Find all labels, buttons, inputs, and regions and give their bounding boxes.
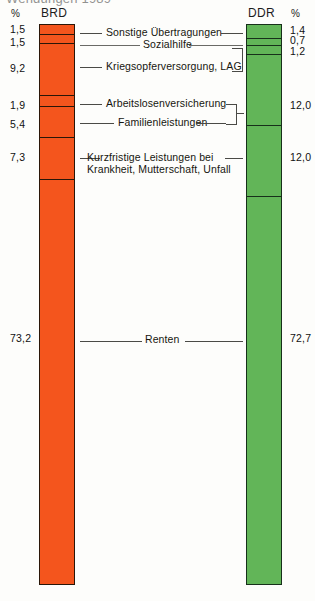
leader-familien-right xyxy=(196,123,226,124)
leader-sonstige-left xyxy=(80,33,102,34)
ddr-column-header: DDR xyxy=(248,6,275,20)
callout-sonstige-uebertragungen: Sonstige Übertragungen xyxy=(106,27,222,38)
brd-segment-arbeitslosenversicherung xyxy=(40,95,74,106)
left-percent-symbol: % xyxy=(11,8,20,19)
bracket-ddr-kriegsopfer xyxy=(232,48,243,72)
callout-kurzfristige-leistungen: Kurzfristige Leistungen bei Krankheit, M… xyxy=(87,152,231,175)
leader-kriegsopfer-left xyxy=(80,67,102,68)
chart-canvas: Wendungen 1989 % BRD DDR % 1,5 1,5 9,2 1… xyxy=(0,0,315,601)
leader-sonstige-right xyxy=(221,33,243,34)
brd-segment-familienleistungen xyxy=(40,106,74,137)
brd-value-sozialhilfe: 1,5 xyxy=(10,36,25,48)
ddr-value-kurzfristige-leistungen: 12,0 xyxy=(290,151,311,163)
brd-segment-sozialhilfe xyxy=(40,34,74,43)
leader-bracket-to-ddr xyxy=(236,113,244,114)
callout-sozialhilfe: Sozialhilfe xyxy=(143,39,192,50)
brd-value-kurzfristige-leistungen: 7,3 xyxy=(10,151,25,163)
brd-segment-sonstige-uebertragungen xyxy=(40,25,74,34)
brd-segment-kriegsopferversorgung xyxy=(40,43,74,95)
brd-stacked-bar xyxy=(39,24,75,585)
ddr-segment-sonstige-uebertragungen xyxy=(247,25,281,38)
callout-renten: Renten xyxy=(145,334,179,345)
ddr-value-renten: 72,7 xyxy=(290,332,311,344)
leader-sozialhilfe-left xyxy=(80,45,140,46)
ddr-segment-sozialhilfe xyxy=(247,38,281,45)
callout-arbeitslosenversicherung: Arbeitslosenversicherung xyxy=(106,98,226,109)
brd-value-kriegsopferversorgung: 9,2 xyxy=(10,62,25,74)
right-percent-symbol: % xyxy=(291,8,300,19)
brd-segment-kurzfristige-leistungen xyxy=(40,137,74,179)
ddr-segment-kurzfristige-leistungen xyxy=(247,125,281,196)
leader-arbeitslosen-left xyxy=(80,104,102,105)
callout-familienleistungen: Familienleistungen xyxy=(118,117,207,128)
ddr-stacked-bar xyxy=(246,24,282,585)
leader-sozialhilfe-right xyxy=(189,45,243,46)
leader-renten-left xyxy=(80,341,142,342)
ddr-value-kriegsopferversorgung: 1,2 xyxy=(290,45,305,57)
ddr-segment-renten xyxy=(247,196,281,584)
ddr-value-arbeitslosenversicherung: 12,0 xyxy=(290,99,311,111)
callout-kurzfristige-line2: Krankheit, Mutterschaft, Unfall xyxy=(87,164,231,176)
brd-column-header: BRD xyxy=(41,6,67,20)
ddr-segment-arbeitslosenversicherung xyxy=(247,54,281,125)
leader-renten-right xyxy=(185,341,243,342)
leader-kurzfristige-right xyxy=(225,158,243,159)
brd-segment-renten xyxy=(40,179,74,584)
ddr-segment-kriegsopferversorgung xyxy=(247,45,281,54)
brd-value-renten: 73,2 xyxy=(10,332,31,344)
callout-kriegsopferversorgung: Kriegsopferversorgung, LAG xyxy=(106,61,242,72)
callout-kurzfristige-line1: Kurzfristige Leistungen bei xyxy=(87,151,213,163)
leader-familien-left xyxy=(80,123,114,124)
brd-value-sonstige-uebertragungen: 1,5 xyxy=(10,23,25,35)
brd-value-familienleistungen: 5,4 xyxy=(10,118,25,130)
bracket-ddr-arbeitslosen-familien xyxy=(226,104,237,125)
brd-value-arbeitslosenversicherung: 1,9 xyxy=(10,99,25,111)
